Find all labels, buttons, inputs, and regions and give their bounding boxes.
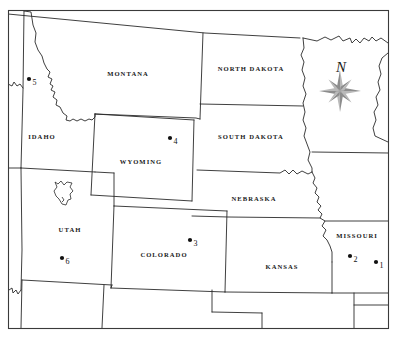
marker-5[interactable]: 5: [27, 77, 37, 87]
compass-north-label: N: [335, 59, 347, 75]
marker-dot[interactable]: [188, 238, 192, 242]
map-frame: [9, 11, 389, 329]
border-dakotas-minnesota: [301, 38, 312, 172]
state-label-colorado: COLORADO: [140, 251, 187, 258]
state-colorado-border: [111, 206, 227, 292]
state-label-idaho: IDAHO: [28, 133, 56, 140]
state-label-utah: UTAH: [59, 226, 82, 233]
state-label-south-dakota: SOUTH DAKOTA: [218, 133, 284, 140]
marker-4[interactable]: 4: [168, 136, 178, 146]
state-idaho-border: [24, 11, 95, 121]
outline-wisconsin: [373, 53, 388, 142]
marker-label: 3: [194, 239, 198, 248]
border-montana-south: [95, 114, 200, 119]
marker-dot[interactable]: [374, 260, 378, 264]
state-label-wyoming: WYOMING: [120, 158, 163, 165]
border-montana-dakotas: [200, 33, 203, 119]
border-missouri-river: [312, 172, 332, 262]
border-southwest-states: [21, 280, 104, 328]
marker-dot[interactable]: [60, 256, 64, 260]
marker-dot[interactable]: [27, 77, 31, 81]
marker-3[interactable]: 3: [188, 238, 198, 248]
state-label-nebraska: NEBRASKA: [231, 195, 276, 202]
border-iowa-north: [312, 152, 388, 153]
state-label-missouri: MISSOURI: [336, 232, 378, 239]
marker-dot[interactable]: [168, 136, 172, 140]
great-salt-lake-icon: [54, 181, 73, 205]
border-missouri-south: [332, 262, 388, 328]
state-label-north-dakota: NORTH DAKOTA: [218, 65, 285, 72]
border-canada: [8, 14, 300, 38]
marker-label: 2: [354, 255, 358, 264]
marker-2[interactable]: 2: [348, 254, 358, 264]
border-pacific-states: [8, 11, 24, 294]
state-label-kansas: KANSAS: [265, 263, 298, 270]
marker-label: 1: [380, 261, 384, 270]
marker-label: 6: [66, 257, 70, 266]
border-sd-ne: [197, 170, 312, 174]
marker-6[interactable]: 6: [60, 256, 70, 266]
border-nd-sd: [200, 104, 303, 106]
border-idaho-south: [21, 168, 95, 172]
state-label-montana: MONTANA: [107, 70, 149, 77]
marker-dot[interactable]: [348, 254, 352, 258]
marker-label: 4: [174, 137, 178, 146]
map-container: MONTANA NORTH DAKOTA SOUTH DAKOTA IDAHO …: [0, 0, 399, 340]
compass-star-icon: [319, 70, 361, 112]
marker-label: 5: [33, 78, 37, 87]
map-figure: MONTANA NORTH DAKOTA SOUTH DAKOTA IDAHO …: [0, 0, 399, 340]
map-markers: 1 2 3 4 5 6: [27, 77, 384, 270]
state-labels: MONTANA NORTH DAKOTA SOUTH DAKOTA IDAHO …: [28, 65, 378, 270]
border-oklahoma-texas: [212, 290, 332, 328]
border-ne-ks: [192, 216, 320, 218]
outline-minnesota: [303, 36, 388, 43]
compass-rose: N: [319, 59, 361, 112]
marker-1[interactable]: 1: [374, 260, 384, 270]
